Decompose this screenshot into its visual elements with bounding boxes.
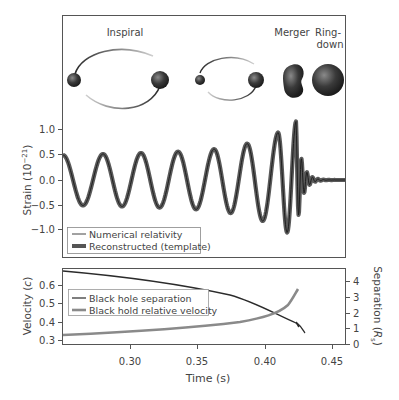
ringdown-label-2: down xyxy=(317,39,344,50)
legend-black-hole-separation: Black hole separation xyxy=(89,293,192,304)
separation-axis-label: Separation (Rs) xyxy=(369,266,384,346)
separation-y-axis: 4 3 2 1 0 xyxy=(346,276,359,350)
figure-canvas: Inspiral Merger Ring- down 1.0 0.5 0.0 −… xyxy=(0,0,399,400)
svg-text:4: 4 xyxy=(353,276,359,287)
ringdown-label-1: Ring- xyxy=(315,27,341,38)
inspiral-label: Inspiral xyxy=(107,27,144,38)
svg-text:−0.5: −0.5 xyxy=(31,200,55,211)
velocity-legend: Black hole separation Black hold relativ… xyxy=(69,290,218,317)
svg-text:1.0: 1.0 xyxy=(39,124,55,135)
svg-text:0.0: 0.0 xyxy=(39,175,55,186)
ringdown-black-hole-icon xyxy=(312,64,344,96)
svg-text:0: 0 xyxy=(353,339,359,350)
inspiral-orbit-wide-icon xyxy=(67,50,169,109)
time-axis-label: Time (s) xyxy=(185,372,231,385)
svg-text:0.30: 0.30 xyxy=(119,356,141,367)
svg-text:0.35: 0.35 xyxy=(186,356,208,367)
svg-text:0.3: 0.3 xyxy=(39,335,55,346)
inspiral-orbit-close-icon xyxy=(195,58,264,101)
strain-axis-label: Strain (10−21) xyxy=(21,145,33,216)
svg-text:0.6: 0.6 xyxy=(39,280,55,291)
svg-text:−1.0: −1.0 xyxy=(31,224,55,235)
svg-text:0.4: 0.4 xyxy=(39,317,55,328)
legend-relative-velocity: Black hold relative velocity xyxy=(89,305,218,316)
svg-text:0.40: 0.40 xyxy=(254,356,276,367)
merger-black-hole-icon xyxy=(283,64,304,98)
strain-y-axis: 1.0 0.5 0.0 −0.5 −1.0 xyxy=(31,124,62,235)
legend-reconstructed-template: Reconstructed (template) xyxy=(89,241,211,252)
strain-legend: Numerical relativity Reconstructed (temp… xyxy=(68,228,211,254)
svg-text:1: 1 xyxy=(353,323,359,334)
time-x-axis: 0.30 0.35 0.40 0.45 xyxy=(119,345,343,367)
svg-text:0.5: 0.5 xyxy=(39,149,55,160)
svg-text:3: 3 xyxy=(353,292,359,303)
velocity-axis-label: Velocity (c) xyxy=(21,277,33,336)
svg-text:2: 2 xyxy=(353,308,359,319)
svg-text:0.5: 0.5 xyxy=(39,298,55,309)
legend-numerical-relativity: Numerical relativity xyxy=(89,229,183,240)
velocity-y-axis: 0.6 0.5 0.4 0.3 xyxy=(39,280,62,346)
merger-label: Merger xyxy=(274,27,310,38)
svg-text:0.45: 0.45 xyxy=(321,356,343,367)
